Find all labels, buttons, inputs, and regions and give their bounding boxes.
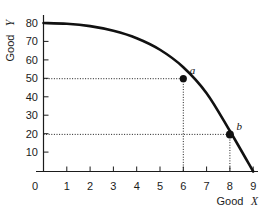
x-tick-label-3: 3 — [110, 180, 116, 192]
x-tick-label-5: 5 — [157, 180, 163, 192]
y-axis-title-symbol: Y — [4, 18, 16, 26]
y-tick-label-20: 20 — [26, 128, 38, 140]
x-axis-title-word: Good — [217, 195, 244, 207]
data-point-a-marker — [180, 75, 187, 82]
data-point-b-label: b — [236, 120, 242, 132]
chart-canvas: a b 80 70 60 50 40 30 20 10 0 1 2 3 4 5 … — [0, 0, 276, 209]
x-axis-title: Good X — [217, 195, 259, 207]
x-tick-label-7: 7 — [204, 180, 210, 192]
y-tick-label-70: 70 — [26, 35, 38, 47]
x-tick-label-6: 6 — [180, 180, 186, 192]
x-tick-label-4: 4 — [134, 180, 140, 192]
y-tick-label-60: 60 — [26, 54, 38, 66]
data-point-b-marker — [226, 130, 234, 138]
y-tick-label-50: 50 — [26, 72, 38, 84]
ppf-chart: a b 80 70 60 50 40 30 20 10 0 1 2 3 4 5 … — [0, 0, 276, 209]
y-axis-title-word: Good — [4, 35, 16, 62]
x-tick-label-8: 8 — [227, 180, 233, 192]
y-tick-label-30: 30 — [26, 109, 38, 121]
y-tick-label-40: 40 — [26, 91, 38, 103]
y-axis-title: Good Y — [4, 18, 16, 61]
y-tick-label-10: 10 — [26, 146, 38, 158]
data-point-a-label: a — [190, 64, 196, 76]
origin-tick-label-0: 0 — [32, 180, 38, 192]
x-axis-title-symbol: X — [250, 195, 259, 207]
x-tick-label-1: 1 — [64, 180, 70, 192]
x-tick-label-2: 2 — [87, 180, 93, 192]
x-tick-label-9: 9 — [250, 180, 256, 192]
ppf-curve-path — [44, 23, 254, 172]
y-tick-label-80: 80 — [26, 17, 38, 29]
